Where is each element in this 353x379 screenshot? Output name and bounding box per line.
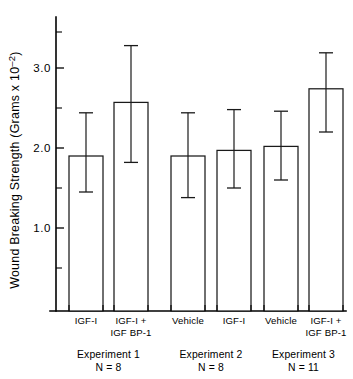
bars-group (69, 46, 343, 311)
category-label-line2: IGF BP-1 (305, 327, 346, 338)
bar-chart: 1.02.03.0 Wound Breaking Strength (Grams… (0, 0, 353, 379)
group-n-label: N = 8 (96, 362, 122, 373)
y-axis-title-exponent: –2 (6, 56, 17, 67)
group-name-label: Experiment 3 (272, 349, 335, 360)
y-tick-label: 1.0 (33, 222, 51, 234)
category-label: IGF-I (223, 315, 246, 326)
y-tick-label: 2.0 (33, 142, 51, 154)
category-labels: IGF-IIGF-I +IGF BP-1VehicleIGF-IVehicleI… (75, 315, 347, 338)
category-label: IGF-I (75, 315, 98, 326)
category-label: IGF-I + (115, 315, 146, 326)
y-axis-title: Wound Breaking Strength (Grams x 10–2) (6, 51, 22, 289)
y-tick-label: 3.0 (33, 62, 51, 74)
y-axis-title-close: ) (8, 51, 22, 55)
category-label: IGF-I + (310, 315, 341, 326)
bar-item (217, 110, 251, 311)
figure-container: 1.02.03.0 Wound Breaking Strength (Grams… (0, 0, 353, 379)
group-name-label: Experiment 1 (77, 349, 140, 360)
category-label-line2: IGF BP-1 (110, 327, 151, 338)
bar-item (114, 46, 148, 311)
group-name-label: Experiment 2 (179, 349, 242, 360)
bar-item (171, 113, 205, 311)
y-axis-title-text: Wound Breaking Strength (Grams x 10–2) (6, 51, 22, 289)
y-axis: 1.02.03.0 (33, 17, 64, 311)
y-tick-marks (56, 32, 64, 268)
category-label: Vehicle (265, 315, 297, 326)
bar-item (69, 113, 103, 311)
y-tick-labels: 1.02.03.0 (33, 62, 51, 234)
group-n-label: N = 8 (198, 362, 224, 373)
category-label: Vehicle (172, 315, 204, 326)
bar-item (264, 111, 298, 311)
bar-item (309, 53, 343, 311)
y-axis-title-main: Wound Breaking Strength (Grams x 10 (8, 67, 22, 289)
group-n-label: N = 11 (288, 362, 319, 373)
group-labels: Experiment 1N = 8Experiment 2N = 8Experi… (77, 349, 335, 373)
